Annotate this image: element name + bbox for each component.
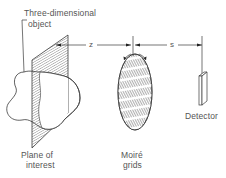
grids-label-line1: Moiré [121,150,143,160]
detector [199,72,207,105]
object-label-line1: Three-dimensional [24,8,96,18]
plane-label-line2: interest [26,160,55,170]
plane-label-line1: Plane of [21,150,53,160]
moire-grids [110,54,160,132]
object-label-line2: object [28,19,51,29]
object-leader-line [22,20,27,72]
dimension-s-label: s [170,40,174,49]
grids-label-line2: grids [123,160,142,170]
detector-label: Detector [185,111,218,121]
dimension-s [135,44,202,47]
dimension-z-label: z [89,40,93,49]
three-dimensional-object [7,71,80,129]
